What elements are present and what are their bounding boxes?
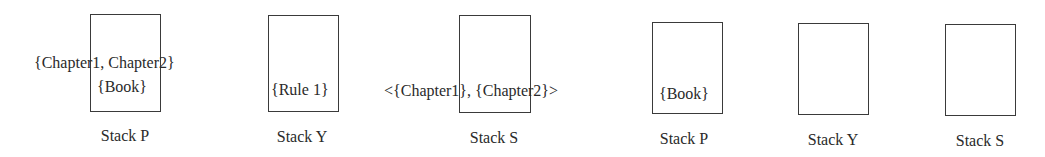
stack-y-label: Stack Y <box>277 129 328 145</box>
stack-y-after-box <box>798 23 869 115</box>
stack-p-after-label: Stack P <box>660 131 708 147</box>
stack-s-item-sequence: <{Chapter1}, {Chapter2}> <box>384 83 558 99</box>
stack-p-label: Stack P <box>101 128 149 144</box>
stack-s-after-box <box>945 24 1016 116</box>
stack-y-after-label: Stack Y <box>808 132 859 148</box>
stack-s-after-label: Stack S <box>956 133 1004 149</box>
stack-p-item-book: {Book} <box>97 79 147 95</box>
stack-y-item-rule: {Rule 1} <box>271 82 329 98</box>
stack-s-label: Stack S <box>470 130 518 146</box>
stack-p-after-item-book: {Book} <box>659 86 709 102</box>
stack-p-item-chapters: {Chapter1, Chapter2} <box>34 55 175 71</box>
